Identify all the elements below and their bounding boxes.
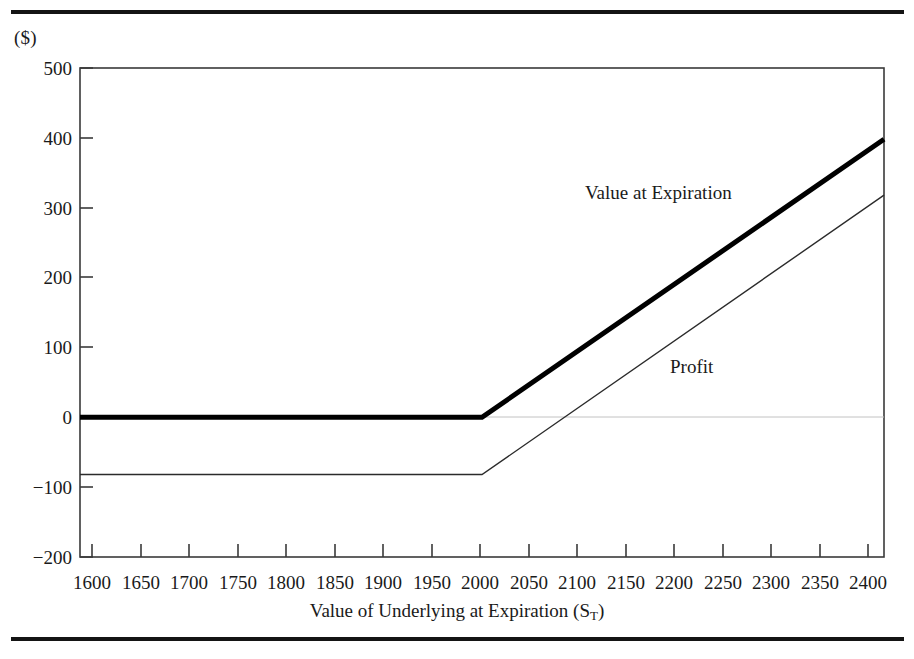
xtick-label: 1700 [161,573,217,592]
series-label-profit: Profit [670,356,713,377]
series-label-value-at-expiration: Value at Expiration [585,182,732,203]
plot-frame [80,68,884,557]
xtick-label: 1800 [258,573,314,592]
ytick-label: 200 [14,268,72,287]
xtick-label: 1900 [355,573,411,592]
x-axis-title-text: Value of Underlying at Expiration (S [310,600,590,621]
ytick-label: 0 [14,408,72,427]
xtick-label: 2100 [549,573,605,592]
ytick-label: 400 [14,129,72,148]
ytick-label: −200 [14,548,72,567]
xtick-label: 2200 [646,573,702,592]
x-axis-title-close: ) [598,600,604,621]
x-axis-title: Value of Underlying at Expiration (ST) [0,600,914,626]
xtick-label: 1600 [64,573,120,592]
x-axis-title-subscript: T [590,608,598,623]
ytick-label: 500 [14,59,72,78]
option-payoff-figure: ($) [0,0,914,659]
xtick-label: 2400 [840,573,896,592]
plot-area [0,0,914,659]
ytick-label: 100 [14,338,72,357]
ytick-label: −100 [14,478,72,497]
xtick-label: 2300 [743,573,799,592]
xtick-label: 2000 [452,573,508,592]
ytick-label: 300 [14,199,72,218]
